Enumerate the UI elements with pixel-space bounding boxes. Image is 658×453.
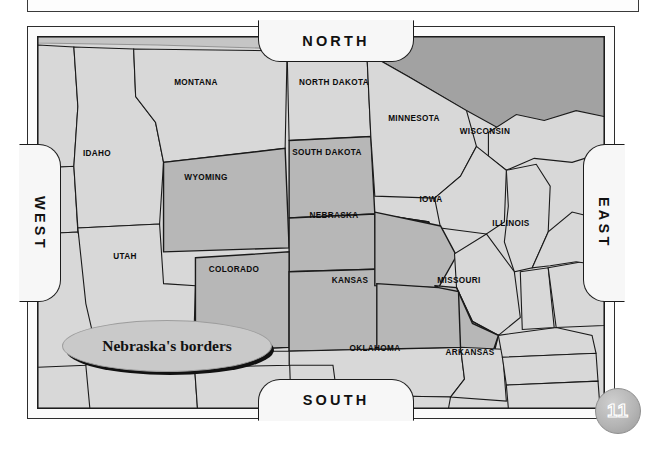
callout-oval-body: Nebraska's borders (62, 320, 272, 372)
page-number-badge: 11 (595, 388, 641, 434)
state-label: NEBRASKA (309, 211, 358, 220)
compass-tab-north-label: NORTH (302, 33, 370, 49)
state-label: UTAH (113, 252, 137, 261)
state-label: KANSAS (332, 276, 369, 285)
compass-tab-north[interactable]: NORTH (258, 20, 414, 62)
empty-panel (27, 0, 639, 12)
compass-tab-south-label: SOUTH (303, 392, 370, 408)
compass-tab-south[interactable]: SOUTH (258, 379, 414, 421)
state-label: COLORADO (209, 265, 260, 274)
compass-tab-east-label: EAST (596, 197, 612, 248)
state-label: ILLINOIS (492, 219, 529, 228)
state-label: SOUTH DAKOTA (292, 148, 362, 157)
callout-label: Nebraska's borders (102, 337, 232, 355)
state-label: WISCONSIN (460, 127, 510, 136)
page-number-label: 11 (607, 400, 629, 422)
state-label: WYOMING (184, 173, 227, 182)
state-label: NORTH DAKOTA (299, 78, 369, 87)
state-label: ARKANSAS (445, 348, 494, 357)
state-label: IDAHO (83, 149, 111, 158)
compass-tab-east[interactable]: EAST (583, 144, 625, 302)
state-label: IOWA (419, 195, 442, 204)
callout-oval: Nebraska's borders (62, 320, 274, 375)
state-label: MISSOURI (437, 276, 480, 285)
state-label: OKLAHOMA (349, 344, 400, 353)
compass-tab-west-label: WEST (32, 196, 48, 251)
state-label: MINNESOTA (388, 114, 440, 123)
state-label: MONTANA (174, 78, 218, 87)
compass-tab-west[interactable]: WEST (19, 144, 61, 302)
